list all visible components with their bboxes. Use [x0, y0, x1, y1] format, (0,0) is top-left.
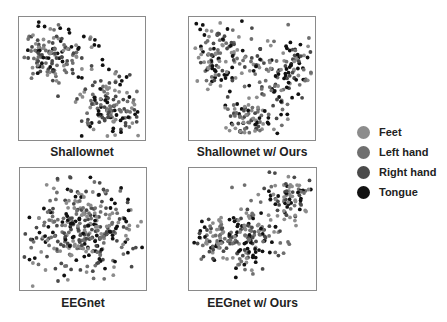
legend: Feet Left hand Right hand Tongue: [357, 122, 436, 202]
caption-eegnet: EEGnet: [19, 296, 147, 310]
legend-item-right-hand: Right hand: [357, 162, 436, 182]
scatter-panel-shallownet: [18, 16, 146, 141]
legend-swatch-icon: [357, 126, 370, 139]
scatter-plot: [20, 168, 146, 290]
scatter-panel-eegnet: [19, 167, 147, 291]
scatter-plot: [189, 168, 316, 290]
scatter-plot: [189, 17, 315, 140]
scatter-panel-eegnet-ours: [188, 167, 317, 291]
caption-shallownet: Shallownet: [18, 145, 146, 159]
legend-swatch-icon: [357, 186, 370, 199]
caption-eegnet-ours: EEGnet w/ Ours: [188, 296, 317, 310]
caption-shallownet-ours: Shallownet w/ Ours: [188, 145, 316, 159]
legend-item-tongue: Tongue: [357, 182, 436, 202]
legend-swatch-icon: [357, 146, 370, 159]
legend-swatch-icon: [357, 166, 370, 179]
legend-item-feet: Feet: [357, 122, 436, 142]
legend-item-left-hand: Left hand: [357, 142, 436, 162]
scatter-plot: [19, 17, 145, 140]
scatter-panel-shallownet-ours: [188, 16, 316, 141]
